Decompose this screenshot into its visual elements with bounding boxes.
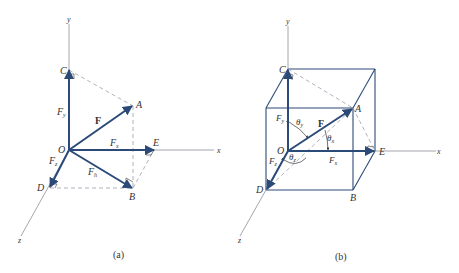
point-D: D [255, 184, 264, 195]
vector-F [288, 109, 352, 151]
y-axis-label: y [285, 17, 290, 26]
label-theta-z: θz [289, 152, 296, 163]
point-B: B [129, 191, 135, 202]
point-C: C [279, 64, 286, 75]
point-O: O [277, 145, 284, 156]
vector-F [69, 106, 132, 150]
x-axis-label: x [216, 146, 221, 155]
figure-a: y x z C A E B D O F Fy Fx Fh Fz (a) [17, 15, 221, 261]
figure-b: y x z C A E B D O F Fy Fx Fz θy θx θz (b… [237, 17, 441, 263]
caption-b: (b) [335, 251, 347, 263]
caption-a: (a) [113, 249, 124, 261]
label-theta-y: θy [296, 117, 303, 128]
z-axis-label: z [17, 236, 22, 245]
z-axis-label: z [237, 236, 242, 245]
label-Fy: Fy [275, 113, 285, 124]
label-theta-x: θx [327, 133, 334, 144]
label-Fh: Fh [87, 166, 97, 178]
label-F: F [318, 118, 324, 129]
point-B: B [350, 192, 356, 203]
label-Fx: Fx [109, 137, 119, 149]
point-E: E [152, 137, 159, 148]
label-Fx: Fx [328, 155, 338, 166]
vector-Fh [69, 150, 132, 188]
label-Fz: Fz [48, 155, 58, 167]
vectors [50, 70, 154, 188]
label-Fy: Fy [56, 106, 66, 118]
point-A: A [354, 103, 362, 114]
point-E: E [378, 146, 385, 157]
vectors [267, 70, 374, 189]
force-components-diagram: y x z C A E B D O F Fy Fx Fh Fz (a) [0, 0, 459, 273]
point-O: O [58, 144, 65, 155]
label-Fz: Fz [268, 156, 278, 167]
y-axis-label: y [66, 15, 71, 24]
label-F: F [95, 115, 101, 126]
point-A: A [135, 99, 143, 110]
x-axis-label: x [436, 147, 441, 156]
point-C: C [60, 65, 67, 76]
point-D: D [36, 182, 45, 193]
